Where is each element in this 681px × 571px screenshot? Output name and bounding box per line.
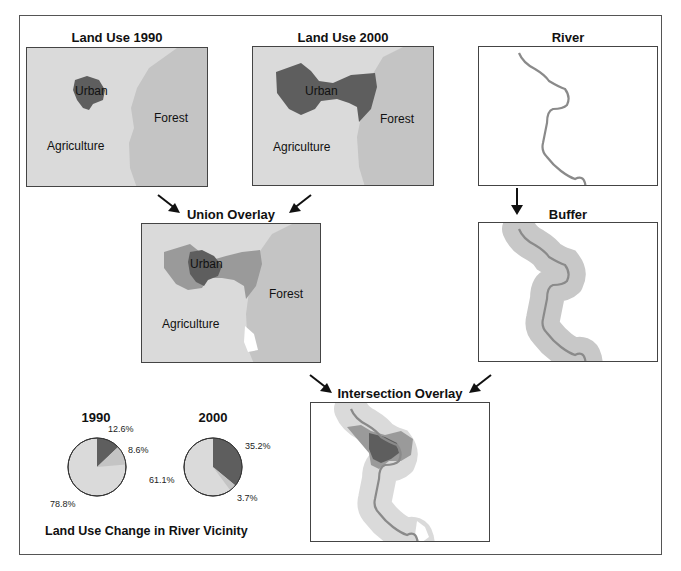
buffer-graphic <box>479 223 658 362</box>
label-forest: Forest <box>269 287 303 301</box>
label-agriculture: Agriculture <box>162 317 219 331</box>
panel-title-buffer: Buffer <box>478 207 658 222</box>
panel-title-land-use-2000: Land Use 2000 <box>252 30 434 45</box>
panel-title-intersection-overlay: Intersection Overlay <box>310 386 490 401</box>
label-forest: Forest <box>154 111 188 125</box>
pie-2000-urban-pct: 35.2% <box>245 441 271 451</box>
panel-title-union-overlay: Union Overlay <box>141 207 321 222</box>
pie-caption: Land Use Change in River Vicinity <box>45 524 248 538</box>
pie-1990-forest-pct: 8.6% <box>128 445 149 455</box>
map-land-use-2000: Urban Forest Agriculture <box>252 46 434 186</box>
pie-title-1990: 1990 <box>76 410 116 425</box>
panel-title-land-use-1990: Land Use 1990 <box>26 30 208 45</box>
pie-2000-forest-pct: 3.7% <box>237 493 258 503</box>
map-buffer <box>478 222 658 362</box>
label-agriculture: Agriculture <box>273 140 330 154</box>
map-union-overlay: Urban Forest Agriculture <box>141 223 321 363</box>
map-land-use-1990: Urban Forest Agriculture <box>26 47 208 187</box>
map-intersection-overlay <box>310 402 490 542</box>
label-agriculture: Agriculture <box>47 139 104 153</box>
pie-title-2000: 2000 <box>193 410 233 425</box>
pie-1990-agriculture-pct: 78.8% <box>50 499 76 509</box>
pie-2000-agriculture-pct: 61.1% <box>149 475 175 485</box>
panel-title-river: River <box>478 30 658 45</box>
pie-chart-2000 <box>182 436 244 498</box>
pie-chart-1990 <box>66 436 128 498</box>
label-urban: Urban <box>75 84 108 98</box>
intersection-overlay-graphic <box>311 403 490 542</box>
river-graphic <box>479 47 658 186</box>
label-urban: Urban <box>305 84 338 98</box>
pie-1990-urban-pct: 12.6% <box>108 424 134 434</box>
label-urban: Urban <box>190 257 223 271</box>
map-river <box>478 46 658 186</box>
label-forest: Forest <box>380 112 414 126</box>
